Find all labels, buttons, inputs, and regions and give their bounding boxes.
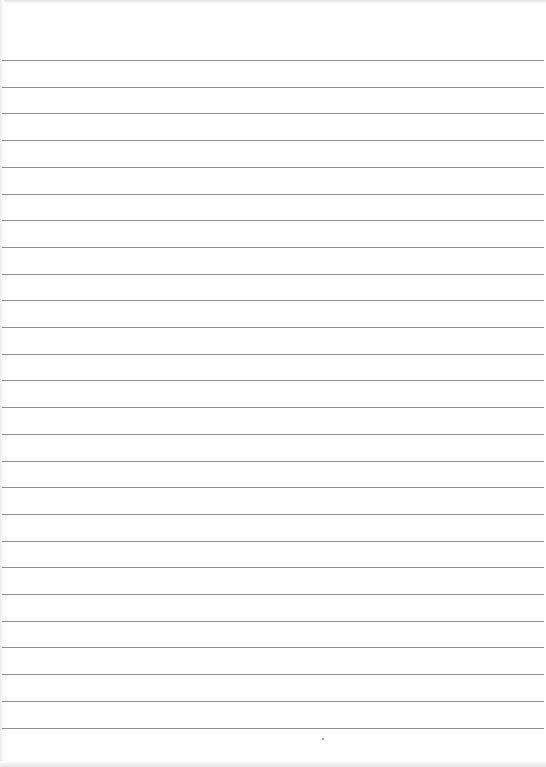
ruled-line <box>2 407 544 408</box>
ruled-line <box>2 728 544 729</box>
paper-speck <box>322 738 324 740</box>
ruled-line <box>2 380 544 381</box>
ruled-line <box>2 354 544 355</box>
ruled-line <box>2 87 544 88</box>
ruled-line <box>2 514 544 515</box>
ruled-line <box>2 701 544 702</box>
ruled-line <box>2 621 544 622</box>
ruled-line <box>2 594 544 595</box>
ruled-line <box>2 461 544 462</box>
paper-edge-left <box>0 0 4 767</box>
lined-paper-page <box>0 0 546 767</box>
ruled-line <box>2 674 544 675</box>
ruled-line <box>2 647 544 648</box>
ruled-line <box>2 113 544 114</box>
ruled-line <box>2 541 544 542</box>
ruled-line <box>2 434 544 435</box>
ruled-line <box>2 327 544 328</box>
ruled-line <box>2 300 544 301</box>
ruled-line <box>2 247 544 248</box>
ruled-line <box>2 220 544 221</box>
paper-edge-top <box>0 0 546 4</box>
ruled-line <box>2 60 544 61</box>
ruled-line <box>2 567 544 568</box>
ruled-line <box>2 140 544 141</box>
ruled-line <box>2 274 544 275</box>
ruled-line <box>2 194 544 195</box>
ruled-line <box>2 167 544 168</box>
ruled-line <box>2 487 544 488</box>
paper-edge-bottom <box>0 761 546 767</box>
